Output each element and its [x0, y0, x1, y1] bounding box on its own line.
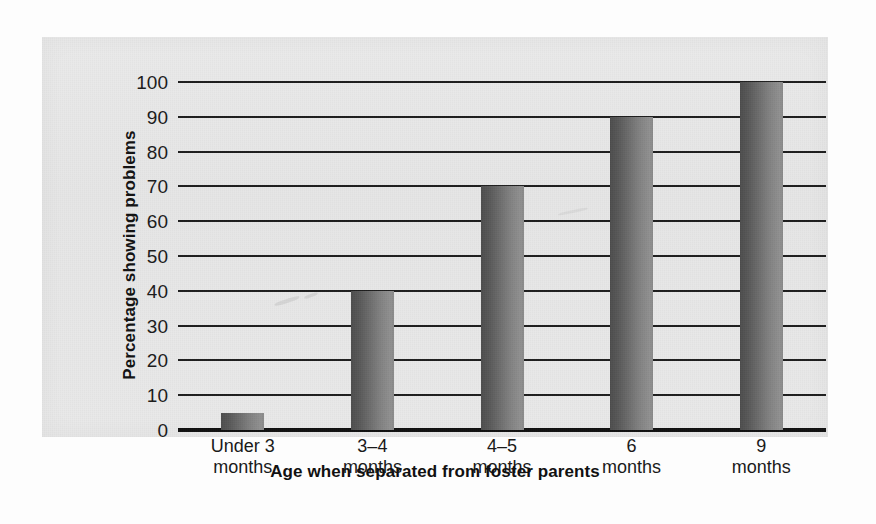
x-axis-title: Age when separated from foster parents	[42, 462, 828, 482]
y-tick-label: 100	[122, 73, 178, 92]
scan-artifact	[304, 292, 318, 300]
y-tick-label: 50	[122, 247, 178, 266]
bar	[221, 413, 264, 430]
y-tick-label: 90	[122, 107, 178, 126]
chart-panel: Percentage showing problems 100908070605…	[42, 37, 828, 437]
y-tick-label: 60	[122, 212, 178, 231]
bar	[351, 291, 394, 430]
y-tick-label: 30	[122, 316, 178, 335]
bar	[481, 186, 524, 430]
bar	[740, 82, 783, 430]
gridline	[178, 81, 826, 83]
y-tick-label: 0	[122, 421, 178, 440]
scan-artifact	[274, 295, 300, 307]
gridline	[178, 151, 826, 153]
x-tick-label-line: 6	[567, 436, 697, 457]
y-tick-label: 20	[122, 351, 178, 370]
x-tick-label-line: 9	[696, 436, 826, 457]
y-tick-label: 70	[122, 177, 178, 196]
x-tick-label-line: Under 3	[178, 436, 308, 457]
scan-artifact	[558, 207, 588, 216]
y-tick-label: 80	[122, 142, 178, 161]
gridline	[178, 116, 826, 118]
y-tick-label: 10	[122, 386, 178, 405]
figure-page: Percentage showing problems 100908070605…	[0, 0, 876, 524]
bar	[610, 117, 653, 430]
x-tick-label-line: 3–4	[308, 436, 438, 457]
y-tick-label: 40	[122, 281, 178, 300]
x-tick-label-line: 4–5	[437, 436, 567, 457]
plot-area: 1009080706050403020100 Under 3months3–4m…	[178, 82, 826, 430]
